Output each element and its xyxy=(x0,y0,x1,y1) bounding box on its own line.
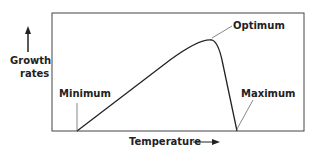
x-arrow-head-icon xyxy=(212,139,220,145)
growth-curve xyxy=(77,40,237,131)
optimum-leader xyxy=(212,26,232,38)
optimum-label: Optimum xyxy=(233,20,285,31)
minimum-label: Minimum xyxy=(59,88,111,99)
y-axis-label-line1: Growth xyxy=(10,55,51,66)
y-axis-label-line2: rates xyxy=(20,68,49,79)
x-axis-label: Temperature xyxy=(129,136,201,147)
y-arrow-head-icon xyxy=(25,26,31,34)
maximum-leader xyxy=(237,100,253,129)
maximum-label: Maximum xyxy=(241,88,296,99)
